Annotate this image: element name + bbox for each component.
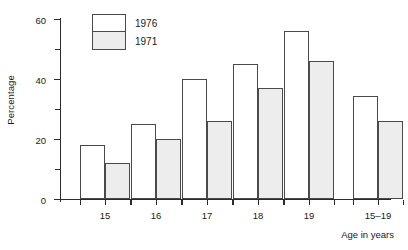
x-tick-mark <box>309 200 310 205</box>
x-tick-mark <box>353 200 354 205</box>
legend-label-1971: 1971 <box>135 36 157 47</box>
legend-entry-1976: 1976 <box>92 14 157 32</box>
x-tick-label-15: 15 <box>100 210 111 221</box>
y-tick-minor <box>55 109 60 110</box>
y-tick-label: 0 <box>41 194 46 205</box>
y-axis-line <box>60 18 61 202</box>
y-tick-major: 20 <box>54 139 60 140</box>
x-tick-mark <box>105 200 106 205</box>
bar-1971-17 <box>207 121 232 199</box>
bar-1971-18 <box>258 88 283 199</box>
x-axis-line <box>60 199 391 200</box>
bar-1976-16 <box>131 124 156 199</box>
x-tick-mark <box>156 200 157 205</box>
bar-1971-15 <box>105 163 130 199</box>
x-tick-mark <box>284 200 285 205</box>
legend-label-1976: 1976 <box>135 18 157 29</box>
x-tick-mark <box>378 200 379 205</box>
x-tick-mark <box>334 200 335 205</box>
x-axis-title: Age in years <box>341 229 394 240</box>
x-tick-mark <box>131 200 132 205</box>
x-tick-label-16: 16 <box>151 210 162 221</box>
x-tick-label-17: 17 <box>202 210 213 221</box>
y-tick-minor <box>55 169 60 170</box>
bar-chart-figure: Percentage 0204060 151617181915–19 1976 … <box>0 0 408 250</box>
y-tick-major: 40 <box>54 79 60 80</box>
bar-1976-17 <box>182 79 207 199</box>
x-tick-mark <box>182 200 183 205</box>
x-tick-label-18: 18 <box>253 210 264 221</box>
bar-1971-16 <box>156 139 181 199</box>
bar-1976-19 <box>284 31 309 199</box>
legend-swatch-1971 <box>92 32 126 50</box>
bar-1976-18 <box>233 64 258 199</box>
x-tick-mark <box>233 200 234 205</box>
y-tick-major: 60 <box>54 19 60 20</box>
y-tick-label: 20 <box>35 134 46 145</box>
y-tick-minor <box>55 49 60 50</box>
bar-1976-15–19 <box>353 96 378 200</box>
chart-legend: 1976 1971 <box>92 14 157 50</box>
x-tick-label-15–19: 15–19 <box>365 210 391 221</box>
y-tick-label: 60 <box>35 14 46 25</box>
legend-swatch-1976 <box>92 14 126 32</box>
bar-1971-19 <box>309 61 334 199</box>
y-tick-major: 0 <box>54 199 60 200</box>
x-tick-mark <box>258 200 259 205</box>
x-tick-mark <box>207 200 208 205</box>
bar-1976-15 <box>80 145 105 199</box>
x-tick-mark <box>80 200 81 205</box>
y-tick-label: 40 <box>35 74 46 85</box>
y-axis-title: Percentage <box>5 40 16 160</box>
bar-1971-15–19 <box>378 121 403 199</box>
x-tick-mark <box>403 200 404 205</box>
legend-entry-1971: 1971 <box>92 32 157 50</box>
x-tick-label-19: 19 <box>304 210 315 221</box>
